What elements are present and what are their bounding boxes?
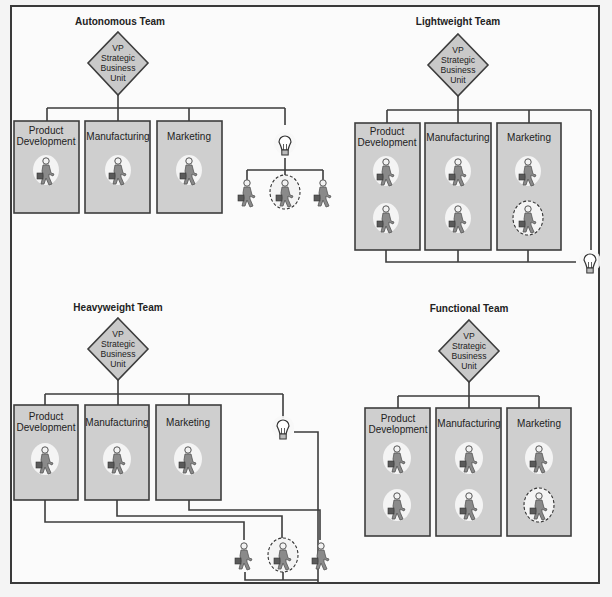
svg-text:Unit: Unit — [110, 359, 126, 369]
person-icon — [525, 442, 553, 474]
department-label: Manufacturing — [437, 418, 500, 429]
department-label: Development — [369, 424, 428, 435]
svg-text:Business: Business — [101, 349, 136, 359]
svg-text:Strategic: Strategic — [101, 339, 136, 349]
person-icon — [31, 443, 59, 475]
team-leader-person-icon — [513, 201, 543, 235]
person-icon — [455, 489, 483, 521]
team-leader-person-icon — [524, 488, 554, 522]
panel-title: Functional Team — [430, 303, 509, 314]
team-structures-diagram: Autonomous Team VP Strategic Business Un… — [0, 0, 612, 597]
department-label: Product — [29, 125, 64, 136]
svg-text:VP: VP — [112, 43, 124, 53]
lightbulb-icon — [579, 250, 601, 273]
person-icon — [312, 543, 329, 570]
department-label: Product — [381, 413, 416, 424]
svg-text:Unit: Unit — [461, 361, 477, 371]
department-label: Marketing — [517, 418, 561, 429]
department-label: Marketing — [166, 417, 210, 428]
person-icon — [174, 443, 202, 475]
svg-text:Strategic: Strategic — [101, 53, 136, 63]
person-icon — [455, 442, 483, 474]
person-icon — [383, 442, 411, 474]
person-icon — [383, 489, 411, 521]
lightbulb-icon — [272, 416, 294, 439]
person-icon — [373, 203, 399, 233]
department-label: Product — [370, 126, 405, 137]
svg-text:Unit: Unit — [450, 75, 466, 85]
panel-heavyweight-team: Heavyweight Team VP Strategic Business U… — [14, 302, 329, 583]
team-leader-person-icon — [268, 538, 298, 572]
person-icon — [33, 155, 59, 185]
svg-text:Business: Business — [101, 63, 136, 73]
person-icon — [103, 443, 131, 475]
department-label: Manufacturing — [86, 131, 149, 142]
person-icon — [445, 156, 471, 186]
svg-text:VP: VP — [112, 329, 124, 339]
svg-text:VP: VP — [452, 45, 464, 55]
person-icon — [235, 543, 252, 570]
team-leader-person-icon — [270, 175, 300, 209]
department-label: Development — [17, 136, 76, 147]
panel-functional-team: Functional Team VP Strategic Business Un… — [365, 303, 571, 536]
department-label: Manufacturing — [426, 132, 489, 143]
department-label: Manufacturing — [85, 417, 148, 428]
svg-text:Business: Business — [452, 351, 487, 361]
person-icon — [445, 203, 471, 233]
person-icon — [238, 180, 255, 207]
person-icon — [515, 156, 541, 186]
svg-text:Strategic: Strategic — [452, 341, 487, 351]
lightbulb-icon — [274, 132, 296, 155]
svg-text:VP: VP — [463, 331, 475, 341]
svg-text:Business: Business — [441, 65, 476, 75]
svg-text:Unit: Unit — [110, 73, 126, 83]
department-label: Marketing — [507, 132, 551, 143]
panel-title: Lightweight Team — [416, 16, 500, 27]
department-label: Development — [17, 422, 76, 433]
panel-title: Heavyweight Team — [73, 302, 162, 313]
person-icon — [373, 156, 399, 186]
person-icon — [176, 155, 202, 185]
panel-lightweight-team: Lightweight Team VP Strategic Business U… — [355, 16, 601, 273]
department-label: Development — [358, 137, 417, 148]
panel-title: Autonomous Team — [75, 16, 165, 27]
person-icon — [105, 155, 131, 185]
department-label: Marketing — [167, 131, 211, 142]
department-label: Product — [29, 411, 64, 422]
panel-autonomous-team: Autonomous Team VP Strategic Business Un… — [14, 16, 331, 213]
svg-text:Strategic: Strategic — [441, 55, 476, 65]
person-icon — [314, 180, 331, 207]
